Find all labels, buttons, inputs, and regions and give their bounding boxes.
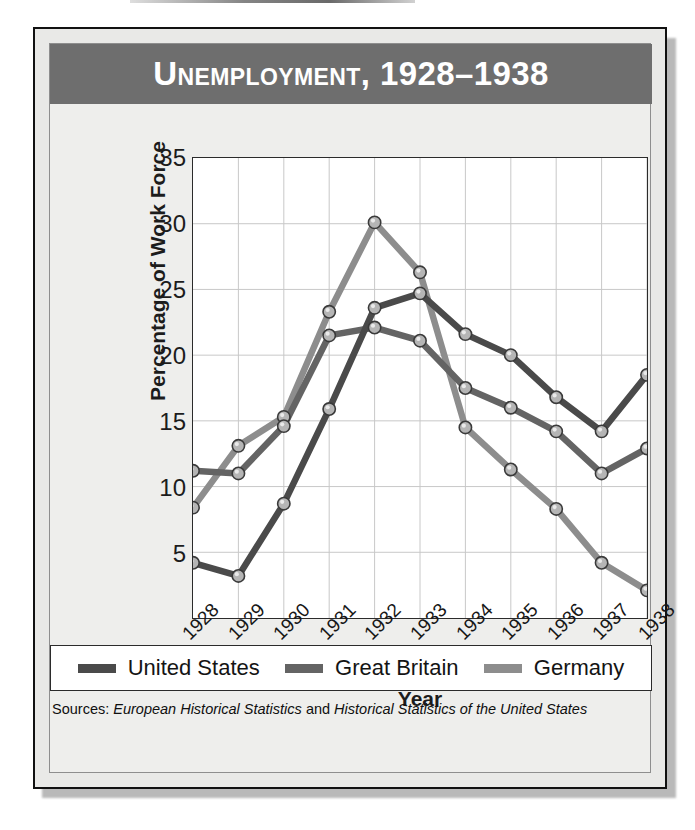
y-tick-label: 35 xyxy=(142,144,186,172)
data-point-marker xyxy=(459,328,471,340)
chart-area: Percentage of Work Force 3530252015105 1… xyxy=(50,109,652,709)
data-point-marker xyxy=(193,501,199,513)
data-point-marker xyxy=(459,421,471,433)
y-tick-label: 10 xyxy=(142,474,186,502)
data-point-highlight xyxy=(371,304,375,308)
data-point-marker xyxy=(550,503,562,515)
data-point-highlight xyxy=(598,559,602,563)
line-chart-svg xyxy=(193,158,647,618)
legend-label: Germany xyxy=(534,655,624,681)
legend-item-germany[interactable]: Germany xyxy=(484,655,624,681)
data-point-highlight xyxy=(416,337,420,341)
sources-first-title: European Historical Statistics xyxy=(113,701,302,717)
data-point-highlight xyxy=(326,308,330,312)
sources-conjunction: and xyxy=(306,701,330,717)
chart-figure: Unemployment, 1928–1938 Percentage of Wo… xyxy=(33,27,667,789)
plot-area xyxy=(192,157,648,619)
y-tick-label: 20 xyxy=(142,342,186,370)
data-point-highlight xyxy=(462,424,466,428)
data-point-highlight xyxy=(326,405,330,409)
chart-legend: United StatesGreat BritainGermany xyxy=(50,645,652,691)
data-point-marker xyxy=(595,425,607,437)
data-point-marker xyxy=(505,349,517,361)
legend-label: United States xyxy=(128,655,260,681)
data-point-highlight xyxy=(598,470,602,474)
data-point-marker xyxy=(595,467,607,479)
data-point-marker xyxy=(459,382,471,394)
data-point-marker xyxy=(323,306,335,318)
data-point-highlight xyxy=(507,466,511,470)
data-point-marker xyxy=(232,467,244,479)
data-point-marker xyxy=(323,329,335,341)
data-point-highlight xyxy=(507,404,511,408)
data-point-highlight xyxy=(280,500,284,504)
legend-item-united-states[interactable]: United States xyxy=(78,655,260,681)
data-point-marker xyxy=(414,335,426,347)
data-point-highlight xyxy=(553,427,557,431)
data-point-highlight xyxy=(598,427,602,431)
data-point-highlight xyxy=(507,351,511,355)
data-point-highlight xyxy=(553,393,557,397)
data-point-marker xyxy=(414,287,426,299)
sources-note: Sources: European Historical Statistics … xyxy=(52,701,652,717)
data-point-marker xyxy=(505,402,517,414)
data-point-highlight xyxy=(280,422,284,426)
legend-swatch-icon xyxy=(78,664,116,673)
data-point-highlight xyxy=(235,442,239,446)
data-point-highlight xyxy=(235,470,239,474)
data-point-marker xyxy=(368,302,380,314)
sources-second-title: Historical Statistics of the United Stat… xyxy=(334,701,587,717)
data-point-marker xyxy=(550,391,562,403)
sources-prefix: Sources: xyxy=(52,701,109,717)
legend-swatch-icon xyxy=(285,664,323,673)
y-tick-label: 30 xyxy=(142,210,186,238)
y-tick-label: 5 xyxy=(142,540,186,568)
legend-label: Great Britain xyxy=(335,655,459,681)
data-point-marker xyxy=(505,463,517,475)
page-title: Unemployment, 1928–1938 xyxy=(153,55,548,93)
data-point-highlight xyxy=(462,384,466,388)
page-edge-artifact xyxy=(130,0,415,3)
legend-swatch-icon xyxy=(484,664,522,673)
data-point-marker xyxy=(278,420,290,432)
y-axis-ticks: 3530252015105 xyxy=(128,109,186,709)
data-point-marker xyxy=(368,321,380,333)
data-point-marker xyxy=(323,403,335,415)
data-point-highlight xyxy=(280,413,284,417)
data-point-marker xyxy=(232,440,244,452)
data-point-highlight xyxy=(416,289,420,293)
data-point-highlight xyxy=(326,332,330,336)
data-point-marker xyxy=(550,425,562,437)
data-point-highlight xyxy=(371,324,375,328)
data-point-highlight xyxy=(553,505,557,509)
y-tick-label: 15 xyxy=(142,408,186,436)
data-point-marker xyxy=(368,216,380,228)
data-point-marker xyxy=(193,557,199,569)
y-tick-label: 25 xyxy=(142,276,186,304)
legend-item-great-britain[interactable]: Great Britain xyxy=(285,655,459,681)
data-point-highlight xyxy=(235,572,239,576)
data-point-marker xyxy=(278,497,290,509)
data-point-marker xyxy=(414,266,426,278)
data-point-marker xyxy=(193,465,199,477)
data-point-highlight xyxy=(371,219,375,223)
data-point-marker xyxy=(595,557,607,569)
data-point-highlight xyxy=(462,330,466,334)
title-banner: Unemployment, 1928–1938 xyxy=(50,44,652,104)
data-point-highlight xyxy=(416,268,420,272)
data-point-marker xyxy=(232,570,244,582)
